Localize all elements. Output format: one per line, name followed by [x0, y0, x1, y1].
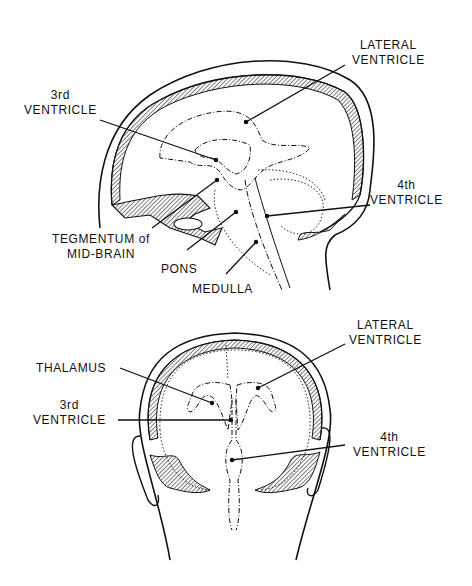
label-third-ventricle-top: 3rd VENTRICLE	[24, 88, 97, 118]
label-pons: PONS	[161, 262, 197, 277]
label-fourth-ventricle-top: 4th VENTRICLE	[370, 178, 443, 208]
label-third-ventricle-bottom: 3rd VENTRICLE	[33, 398, 106, 428]
label-medulla: MEDULLA	[192, 282, 253, 297]
label-lateral-ventricle-top: LATERAL VENTRICLE	[352, 38, 425, 68]
label-lateral-ventricle-bottom: LATERAL VENTRICLE	[349, 318, 422, 348]
label-fourth-ventricle-bottom: 4th VENTRICLE	[353, 430, 426, 460]
label-thalamus: THALAMUS	[36, 361, 106, 376]
posterior-head	[132, 333, 330, 560]
label-tegmentum: TEGMENTUM of MID-BRAIN	[52, 232, 150, 262]
